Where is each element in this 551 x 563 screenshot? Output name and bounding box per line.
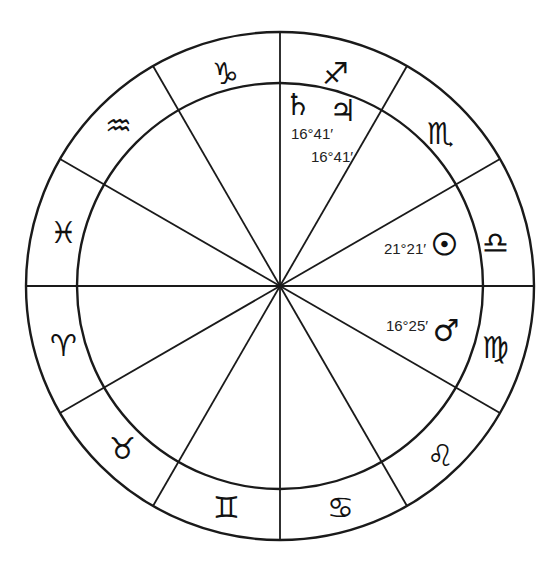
saturn-degree-label: 16°41′ bbox=[291, 125, 333, 142]
spoke-line bbox=[60, 286, 280, 413]
mars-degree-label: 16°25′ bbox=[386, 317, 428, 334]
spoke-line bbox=[280, 286, 500, 413]
leo-sign-icon: ♌︎ bbox=[427, 438, 454, 473]
house-division-lines bbox=[26, 32, 534, 540]
taurus-sign-icon: ♉︎ bbox=[109, 431, 136, 466]
aries-sign-icon: ♈︎ bbox=[50, 328, 77, 363]
jupiter-planet-icon: ♃︎ bbox=[330, 93, 357, 128]
spoke-line bbox=[280, 159, 500, 286]
jupiter-degree-label: 16°41′ bbox=[311, 148, 353, 165]
cancer-sign-icon: ♋︎ bbox=[327, 490, 354, 525]
spoke-line bbox=[60, 159, 280, 286]
sagittarius-sign-icon: ♐︎ bbox=[322, 56, 349, 91]
zodiac-signs: ♎︎♏︎♐︎♑︎♒︎♓︎♈︎♉︎♊︎♋︎♌︎♍︎ bbox=[50, 56, 509, 525]
scorpio-sign-icon: ♏︎ bbox=[427, 116, 454, 151]
virgo-sign-icon: ♍︎ bbox=[482, 330, 509, 365]
saturn-planet-icon: ♄︎ bbox=[285, 87, 312, 122]
capricorn-sign-icon: ♑︎ bbox=[212, 56, 239, 91]
sun-degree-label: 21°21′ bbox=[384, 240, 426, 257]
sun-planet-icon: ☉︎ bbox=[431, 227, 458, 262]
aquarius-sign-icon: ♒︎ bbox=[105, 108, 132, 143]
spoke-line bbox=[153, 66, 280, 286]
mars-planet-icon: ♂︎ bbox=[433, 313, 460, 348]
spoke-line bbox=[153, 286, 280, 506]
libra-sign-icon: ♎︎ bbox=[482, 225, 509, 260]
gemini-sign-icon: ♊︎ bbox=[213, 490, 240, 525]
zodiac-chart-wheel: ♎︎♏︎♐︎♑︎♒︎♓︎♈︎♉︎♊︎♋︎♌︎♍︎ ♄︎16°41′♃︎16°41… bbox=[0, 0, 551, 563]
pisces-sign-icon: ♓︎ bbox=[50, 215, 77, 250]
